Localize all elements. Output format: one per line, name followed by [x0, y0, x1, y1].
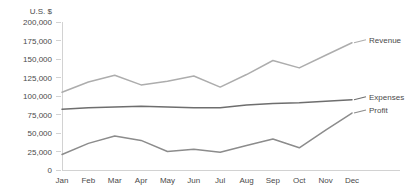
x-axis-tick-label: May — [160, 176, 175, 185]
y-axis-tick-label: 125,000 — [23, 74, 52, 83]
line-chart: U.S. $200,000175,000150,000125,000100,00… — [0, 0, 416, 194]
series-line-expenses — [62, 100, 352, 110]
x-axis-tick-label: Sep — [266, 176, 281, 185]
y-axis-tick-label: 50,000 — [28, 129, 53, 138]
y-axis-tick-label: 175,000 — [23, 37, 52, 46]
x-axis-tick-label: Dec — [345, 176, 359, 185]
series-label-profit: Profit — [369, 106, 388, 115]
x-axis-tick-label: Jan — [56, 176, 69, 185]
y-axis-tick-label: 100,000 — [23, 92, 52, 101]
y-axis-tick-label: 200,000 — [23, 18, 52, 27]
x-axis-tick-label: Jun — [187, 176, 200, 185]
series-label-expenses: Expenses — [369, 93, 404, 102]
y-axis-tick-label: 0 — [48, 166, 53, 175]
series-label-revenue: Revenue — [369, 36, 402, 45]
series-leader-line-revenue — [354, 40, 366, 43]
x-axis-tick-label: Mar — [108, 176, 122, 185]
x-axis-tick-label: Apr — [135, 176, 148, 185]
y-axis-tick-label: 25,000 — [28, 148, 53, 157]
x-axis-tick-label: Nov — [319, 176, 333, 185]
y-axis-tick-label: 150,000 — [23, 55, 52, 64]
x-axis-tick-label: Oct — [293, 176, 306, 185]
y-axis-title: U.S. $ — [30, 7, 53, 16]
x-axis-tick-label: Aug — [239, 176, 253, 185]
x-axis-tick-label: Jul — [215, 176, 225, 185]
series-leader-line-expenses — [354, 97, 366, 100]
series-leader-line-profit — [354, 110, 366, 113]
x-axis-tick-label: Feb — [81, 176, 95, 185]
y-axis-tick-label: 75,000 — [28, 111, 53, 120]
chart-canvas: U.S. $200,000175,000150,000125,000100,00… — [0, 0, 416, 194]
series-line-revenue — [62, 43, 352, 93]
series-line-profit — [62, 113, 352, 154]
